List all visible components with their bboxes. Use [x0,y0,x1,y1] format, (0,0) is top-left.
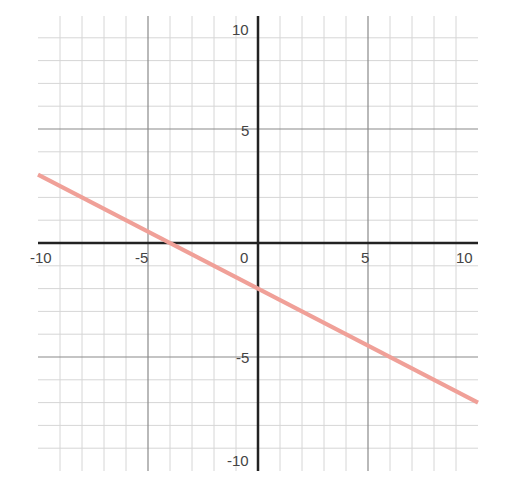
y-tick-label-5: 5 [241,122,249,139]
y-tick-label-neg10: -10 [227,452,249,469]
x-tick-label-neg10: -10 [30,249,52,266]
origin-label: 0 [240,249,248,266]
x-tick-label-5: 5 [361,249,369,266]
y-tick-label-neg5: -5 [236,349,249,366]
x-tick-label-neg5: -5 [135,249,148,266]
tick-labels: -10 -5 0 5 10 10 5 -5 -10 [30,21,473,469]
y-tick-label-10: 10 [232,21,249,38]
coordinate-plane: -10 -5 0 5 10 10 5 -5 -10 [0,0,506,485]
x-tick-label-10: 10 [456,249,473,266]
